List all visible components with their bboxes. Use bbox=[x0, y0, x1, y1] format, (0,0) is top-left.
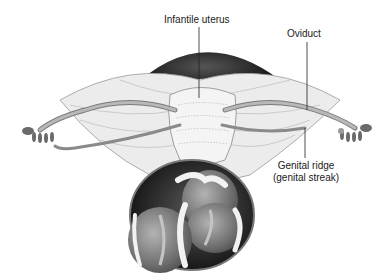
anatomy-illustration bbox=[0, 0, 389, 275]
label-genital-ridge-line2: (genital streak) bbox=[272, 172, 340, 184]
label-oviduct: Oviduct bbox=[287, 28, 321, 40]
label-infantile-uterus: Infantile uterus bbox=[164, 14, 230, 26]
label-genital-ridge: Genital ridge (genital streak) bbox=[272, 160, 340, 184]
label-genital-ridge-line1: Genital ridge bbox=[272, 160, 340, 172]
anatomy-figure: Infantile uterus Oviduct Genital ridge (… bbox=[0, 0, 389, 275]
